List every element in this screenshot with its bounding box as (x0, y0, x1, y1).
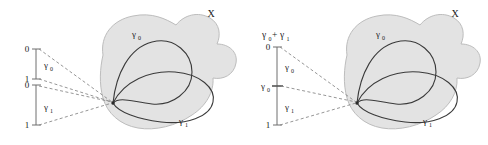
panel-left: 0 1 0 1 γ 0 γ 1 γ 0 γ 1 X (25, 8, 237, 130)
concat-gamma1-glyph: γ (279, 30, 284, 40)
mid-tick-gamma-sub: 0 (267, 87, 270, 93)
concat-gamma0-glyph: γ (261, 30, 266, 40)
interval1-bracket-label-left: γ 1 (43, 102, 53, 114)
loop-gamma1-glyph-left: γ (178, 116, 183, 126)
ray-1-bottom-left (39, 103, 112, 125)
loop-gamma0-glyph-right: γ (375, 29, 380, 39)
segment-gamma1-glyph: γ (284, 102, 289, 112)
unit-interval-mid-label-right: γ 0 (260, 81, 270, 93)
segment-gamma0-glyph: γ (284, 62, 289, 72)
interval0-start-label-left: 0 (25, 44, 30, 54)
concat-gamma1-sub: 1 (287, 36, 290, 42)
segment-gamma0-sub: 0 (291, 68, 294, 74)
loop-gamma0-sub-right: 0 (382, 35, 385, 41)
mid-tick-gamma-glyph: γ (260, 81, 265, 91)
space-label-right: X (451, 8, 459, 19)
interval1-end-label-left: 1 (25, 120, 30, 130)
unit-interval-end-label-right: 1 (266, 120, 271, 130)
loop-gamma1-sub-left: 1 (185, 122, 188, 128)
space-label-left: X (207, 8, 215, 19)
interval0-bracket-label-left: γ 0 (43, 60, 53, 72)
segment-gamma1-label-right: γ 1 (284, 102, 294, 114)
ray-1-right (280, 103, 356, 125)
interval1-start-label-left: 0 (25, 80, 30, 90)
interval1-bracket-sub-left: 1 (50, 108, 53, 114)
unit-interval-start-label-right: 0 (266, 42, 271, 52)
panel-right: γ 0 + γ 1 0 1 γ 0 γ 0 γ 1 γ 0 γ 1 (260, 8, 480, 130)
segment-gamma1-sub: 1 (291, 108, 294, 114)
loop-gamma1-sub-right: 1 (429, 122, 432, 128)
figure-canvas: 0 1 0 1 γ 0 γ 1 γ 0 γ 1 X (0, 0, 488, 145)
loop-gamma0-glyph-left: γ (131, 29, 136, 39)
interval0-bracket-gamma-left: γ (43, 60, 48, 70)
segment-gamma0-label-right: γ 0 (284, 62, 294, 74)
concat-label-right: γ 0 + γ 1 (261, 30, 290, 42)
loop-gamma0-sub-left: 0 (138, 35, 141, 41)
interval1-bracket-gamma-left: γ (43, 102, 48, 112)
concat-plus-sign: + (272, 30, 277, 40)
interval0-bracket-sub-left: 0 (50, 66, 53, 72)
loop-gamma1-glyph-right: γ (422, 116, 427, 126)
